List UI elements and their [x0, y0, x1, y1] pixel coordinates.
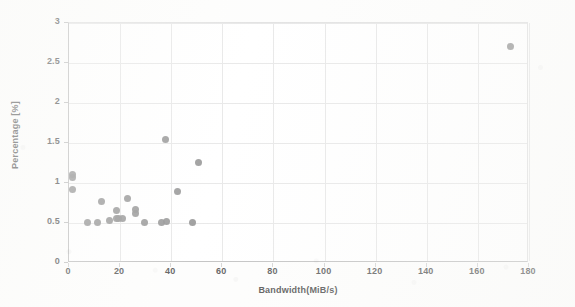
y-tick-label: 0: [30, 256, 60, 266]
y-tick-mark: [64, 222, 68, 223]
y-tick-mark: [64, 262, 68, 263]
x-axis-title: Bandwidth(MiB/s): [68, 285, 528, 295]
gridline-horizontal: [69, 103, 527, 104]
x-tick-label: 20: [104, 266, 134, 276]
y-tick-label: 1: [30, 176, 60, 186]
x-tick-label: 40: [155, 266, 185, 276]
data-point: [189, 219, 196, 226]
gridline-vertical: [222, 23, 223, 261]
plot-area: [68, 22, 528, 262]
gridline-horizontal: [69, 183, 527, 184]
x-tick-label: 180: [513, 266, 543, 276]
gridline-vertical: [171, 23, 172, 261]
y-tick-mark: [64, 182, 68, 183]
y-tick-label: 2: [30, 96, 60, 106]
gridline-horizontal: [69, 223, 527, 224]
gridline-vertical: [529, 23, 530, 261]
gridline-vertical: [120, 23, 121, 261]
gridline-vertical: [325, 23, 326, 261]
gridline-vertical: [273, 23, 274, 261]
data-point: [195, 159, 202, 166]
x-tick-label: 100: [309, 266, 339, 276]
y-tick-mark: [64, 102, 68, 103]
y-tick-label: 1.5: [30, 136, 60, 146]
data-point: [507, 43, 514, 50]
scatter-chart-screenshot: 020406080100120140160180 00.511.522.53 B…: [0, 0, 575, 307]
data-point: [162, 136, 169, 143]
x-tick-label: 160: [462, 266, 492, 276]
gridline-vertical: [376, 23, 377, 261]
gridline-horizontal: [69, 63, 527, 64]
y-axis-title: Percentage [%]: [10, 75, 20, 195]
x-tick-label: 120: [360, 266, 390, 276]
x-tick-label: 140: [411, 266, 441, 276]
data-point: [124, 195, 131, 202]
y-tick-label: 2.5: [30, 56, 60, 66]
data-point: [113, 207, 120, 214]
gridline-horizontal: [69, 23, 527, 24]
y-tick-mark: [64, 22, 68, 23]
gridline-horizontal: [69, 143, 527, 144]
data-point: [69, 174, 76, 181]
y-tick-mark: [64, 142, 68, 143]
gridline-vertical: [427, 23, 428, 261]
x-tick-label: 80: [257, 266, 287, 276]
y-tick-mark: [64, 62, 68, 63]
y-tick-label: 0.5: [30, 216, 60, 226]
x-tick-label: 60: [206, 266, 236, 276]
x-tick-label: 0: [53, 266, 83, 276]
data-point: [141, 219, 148, 226]
y-tick-label: 3: [30, 16, 60, 26]
data-point: [69, 186, 76, 193]
gridline-vertical: [478, 23, 479, 261]
